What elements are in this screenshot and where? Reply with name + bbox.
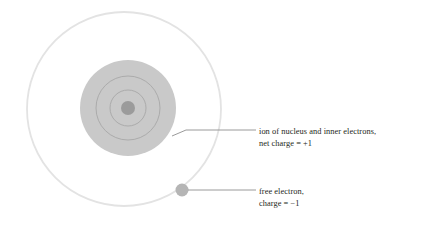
callout-free-electron-line1: free electron, <box>259 187 304 196</box>
callout-free-electron: free electron, charge = −1 <box>259 186 304 209</box>
nucleus-dot <box>121 101 135 115</box>
callout-ion-line1: ion of nucleus and inner electrons, <box>259 127 376 136</box>
callout-ion-line2: net charge = +1 <box>259 138 376 150</box>
free-electron-dot <box>176 184 189 197</box>
diagram-canvas: ion of nucleus and inner electrons, net … <box>0 0 428 227</box>
callout-free-electron-line2: charge = −1 <box>259 198 304 210</box>
leader-line-ion <box>172 130 256 136</box>
callout-ion: ion of nucleus and inner electrons, net … <box>259 126 376 149</box>
atom-diagram-figure <box>0 0 428 227</box>
